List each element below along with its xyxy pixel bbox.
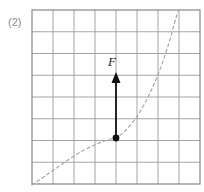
figure-container: (2) F: [0, 0, 204, 192]
grid-figure-canvas: (2) F: [0, 0, 204, 192]
figure-index-label: (2): [8, 16, 21, 28]
force-vector-label: F: [107, 54, 117, 69]
curve-point-marker: [113, 135, 120, 142]
